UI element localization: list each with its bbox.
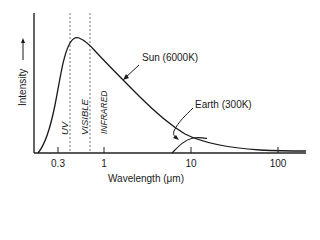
earth-curve [172,138,207,153]
x-tick-100: 100 [270,158,287,169]
x-ticks [58,147,278,153]
visible-label: VISIBLE [79,99,90,135]
x-tick-1: 1 [101,158,107,169]
x-axis-label: Wavelength (μm) [108,173,184,184]
x-tick-10: 10 [185,158,196,169]
infrared-label: INFRARED [99,91,109,134]
uv-label: UV [59,122,70,135]
x-tick-0-3: 0.3 [51,158,65,169]
sun-annotation: Sun (6000K) [142,52,198,63]
intensity-arrowhead [21,38,25,43]
y-axis-label: Intensity [17,69,28,106]
earth-annotation: Earth (300K) [195,99,252,110]
